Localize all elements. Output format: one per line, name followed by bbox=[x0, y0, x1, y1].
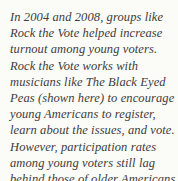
caption-line: In 2004 and 2008, groups like bbox=[10, 9, 174, 25]
caption-line: musicians like The Black Eyed bbox=[10, 74, 174, 90]
caption-text-block: In 2004 and 2008, groups like Rock the V… bbox=[0, 0, 178, 181]
caption-line: learn about the issues, and vote. bbox=[10, 122, 174, 138]
caption-line: Rock the Vote works with bbox=[10, 58, 174, 74]
caption-line: However, participation rates bbox=[10, 139, 174, 155]
caption-line: young Americans to register, bbox=[10, 106, 174, 122]
caption-line: among young voters still lag bbox=[10, 155, 174, 171]
caption-line: behind those of older Americans. bbox=[10, 171, 174, 181]
caption-line: Peas (shown here) to encourage bbox=[10, 90, 174, 106]
caption-line: turnout among young voters. bbox=[10, 41, 174, 57]
caption-line: Rock the Vote helped increase bbox=[10, 25, 174, 41]
